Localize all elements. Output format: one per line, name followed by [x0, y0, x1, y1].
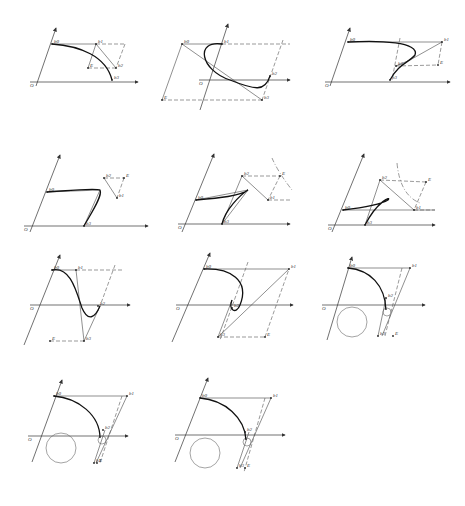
panel-4: b0b1b2b3EO [24, 155, 148, 232]
y-axis [327, 257, 352, 340]
dashed-guide-line [380, 180, 426, 182]
point-label-b3: b3 [380, 331, 386, 336]
point-label-b2: b2 [118, 63, 124, 68]
control-point-b2 [244, 431, 246, 433]
construction-line [382, 268, 410, 336]
point-label-b3: b3 [114, 75, 120, 80]
point-label-b2: b2 [247, 427, 253, 432]
point-label-b3: b3 [86, 336, 92, 341]
construction-line [76, 270, 84, 341]
auxiliary-curve-c [397, 163, 420, 203]
control-point-b1 [116, 197, 118, 199]
control-point-b1 [75, 269, 77, 271]
point-label-e: E [51, 336, 55, 341]
point-label-b3: b3 [224, 219, 230, 224]
point-label-b1: b1 [416, 205, 421, 210]
control-point-b3 [221, 223, 223, 225]
control-point-b1 [126, 395, 128, 397]
origin-label: O [175, 436, 179, 441]
point-label-b1: b1 [98, 39, 103, 44]
point-label-e: E [246, 463, 250, 468]
construction-line [218, 269, 289, 337]
point-label-b1: b1 [119, 193, 124, 198]
point-label-e: E [125, 173, 129, 178]
bezier-curve [348, 41, 415, 80]
y-axis [332, 154, 364, 232]
bezier-curve [54, 396, 100, 438]
y-axis [200, 24, 228, 110]
point-label-e: E [266, 332, 270, 337]
magnifier-circle [243, 438, 251, 446]
control-point-b2 [115, 67, 117, 69]
origin-label: O [28, 437, 32, 442]
magnifier-circle [46, 433, 76, 463]
panel-11: b0b1b2b3EO [175, 378, 285, 472]
control-point-b3 [389, 79, 391, 81]
point-label-b2: b2 [100, 301, 106, 306]
control-point-b3 [93, 462, 95, 464]
control-point-b1 [270, 397, 272, 399]
point-label-b3: b3 [220, 332, 226, 337]
bezier-curve [52, 270, 100, 317]
construction-line [162, 44, 182, 100]
panel-3: b0b1b2b3EO [325, 28, 450, 88]
control-point-e [279, 175, 281, 177]
control-point-b2 [103, 177, 105, 179]
point-label-b2: b2 [244, 171, 250, 176]
control-point-b0 [195, 199, 197, 201]
point-label-b0: b0 [54, 265, 60, 270]
y-axis [36, 28, 56, 86]
point-label-b2: b2 [382, 175, 388, 180]
control-point-b0 [51, 269, 53, 271]
point-label-b0: b0 [184, 39, 190, 44]
point-label-b0: b0 [350, 263, 356, 268]
control-point-b1 [441, 41, 443, 43]
point-label-b3: b3 [264, 95, 270, 100]
origin-label: O [176, 306, 180, 311]
control-point-b3 [364, 224, 366, 226]
control-point-b1 [221, 43, 223, 45]
point-label-b0: b0 [202, 393, 208, 398]
point-label-b2: b2 [388, 293, 394, 298]
control-point-b1 [267, 199, 269, 201]
point-label-e: E [439, 60, 443, 65]
control-point-b3 [83, 340, 85, 342]
point-label-b2: b2 [234, 303, 240, 308]
point-label-e: E [427, 177, 431, 182]
point-label-b0: b0 [56, 391, 62, 396]
point-label-b1: b1 [129, 391, 134, 396]
bezier-curve [343, 199, 389, 225]
construction-line [96, 44, 116, 68]
dashed-guide-line [265, 269, 289, 337]
control-point-e [96, 462, 98, 464]
control-point-e [87, 67, 89, 69]
point-label-b0: b0 [206, 264, 212, 269]
control-point-b1 [95, 43, 97, 45]
construction-line [365, 180, 380, 225]
control-point-b0 [203, 268, 205, 270]
dashed-guide-line [220, 262, 248, 340]
point-label-e: E [394, 331, 398, 336]
control-point-b0 [181, 43, 183, 45]
origin-label: O [30, 83, 34, 88]
control-point-b0 [347, 41, 349, 43]
origin-label: O [322, 306, 326, 311]
magnifier-circle [190, 438, 220, 468]
origin-label: O [30, 306, 34, 311]
point-label-b0: b0 [350, 37, 356, 42]
control-point-b2 [241, 175, 243, 177]
point-label-b1: b1 [412, 263, 417, 268]
point-label-b0: b0 [54, 39, 60, 44]
bezier-curve [52, 44, 112, 80]
point-label-b0: b0 [345, 205, 351, 210]
point-label-b2: b2 [272, 71, 278, 76]
control-point-b3 [111, 79, 113, 81]
point-label-b1: b1 [270, 195, 275, 200]
control-point-b1 [409, 267, 411, 269]
control-point-b1 [288, 268, 290, 270]
control-point-e [264, 336, 266, 338]
construction-line [182, 44, 262, 100]
point-label-b3: b3 [239, 463, 245, 468]
control-point-e [244, 467, 246, 469]
control-point-b2 [102, 429, 104, 431]
